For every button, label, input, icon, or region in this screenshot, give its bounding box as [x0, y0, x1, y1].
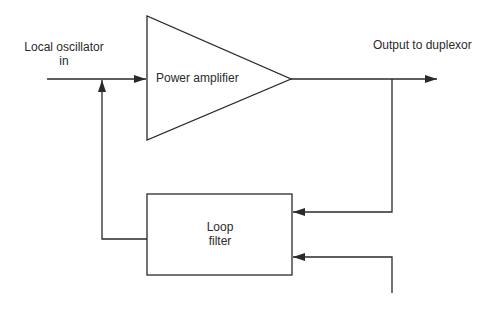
output-sample-line	[293, 79, 392, 212]
input-label-line1: Local oscillator	[16, 40, 112, 54]
filter-label-line1: Loop	[187, 220, 253, 234]
input-label-line2: in	[16, 54, 112, 68]
input-label: Local oscillator in	[16, 40, 112, 68]
amplifier-label: Power amplifier	[156, 71, 239, 85]
reference-input-line	[293, 257, 392, 293]
output-label: Output to duplexor	[373, 38, 472, 52]
filter-label: Loop filter	[187, 220, 253, 248]
filter-label-line2: filter	[187, 234, 253, 248]
control-feedback-line	[102, 80, 147, 239]
